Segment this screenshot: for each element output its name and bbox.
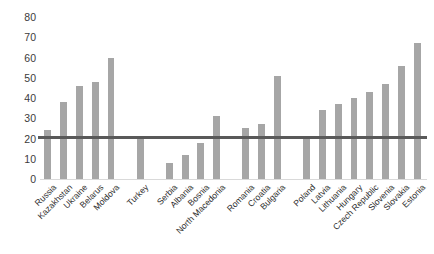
y-axis: 01020304050607080 bbox=[0, 17, 36, 179]
y-tick-label: 20 bbox=[4, 133, 36, 144]
bar bbox=[166, 163, 173, 179]
y-tick-label: 70 bbox=[4, 32, 36, 43]
bar bbox=[303, 139, 310, 180]
y-tick-label: 10 bbox=[4, 154, 36, 165]
bar bbox=[108, 58, 115, 180]
y-tick-label: 30 bbox=[4, 113, 36, 124]
bar-chart: 01020304050607080 RussiaKazakhstanUkrain… bbox=[0, 0, 434, 254]
bar bbox=[274, 76, 281, 179]
bar bbox=[197, 143, 204, 179]
bar bbox=[319, 110, 326, 179]
bars-layer bbox=[40, 17, 425, 179]
bar bbox=[60, 102, 67, 179]
y-tick-label: 80 bbox=[4, 12, 36, 23]
bar bbox=[414, 43, 421, 179]
bar bbox=[213, 116, 220, 179]
bar bbox=[258, 124, 265, 179]
y-tick-label: 40 bbox=[4, 93, 36, 104]
x-axis: RussiaKazakhstanUkraineBelarusMoldovaTur… bbox=[0, 179, 434, 254]
bar bbox=[366, 92, 373, 179]
bar bbox=[76, 86, 83, 179]
bar bbox=[182, 155, 189, 179]
bar bbox=[398, 66, 405, 179]
y-tick-label: 50 bbox=[4, 73, 36, 84]
bar bbox=[382, 84, 389, 179]
bar bbox=[137, 139, 144, 180]
bar bbox=[92, 82, 99, 179]
reference-line bbox=[38, 136, 427, 139]
bar bbox=[335, 104, 342, 179]
y-tick-label: 60 bbox=[4, 52, 36, 63]
plot-area bbox=[40, 17, 425, 179]
x-tick-label: Turkey bbox=[126, 183, 150, 207]
